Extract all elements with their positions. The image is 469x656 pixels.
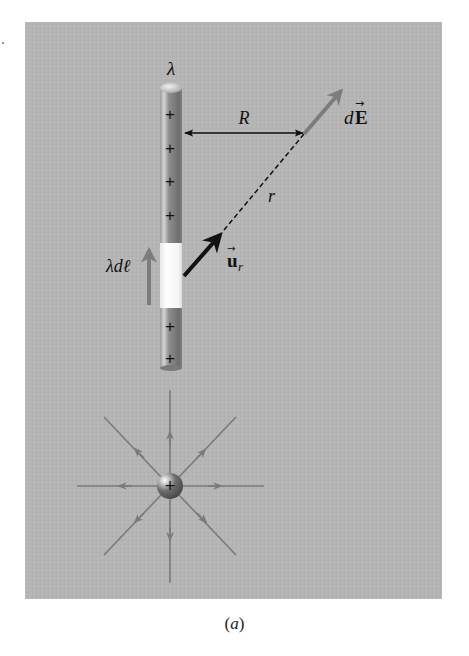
figure-panel: [25, 22, 442, 599]
de-prefix: d: [344, 107, 354, 128]
caption-close-paren: ): [239, 614, 245, 633]
lambda-label: λ: [166, 58, 175, 79]
de-symbol: E: [355, 107, 368, 128]
plus-sign: +: [165, 105, 175, 124]
caption-letter: a: [230, 614, 239, 633]
figure-caption: (a): [0, 614, 469, 634]
de-vector-arrow: →: [355, 97, 364, 110]
charge-element-label: λdℓ: [105, 256, 131, 276]
charge-element-dl: [160, 243, 182, 308]
diagram-figure: + + + + + + λ R r d E → u r → λdℓ: [0, 0, 469, 656]
unit-vector-arrow-accent: →: [227, 243, 235, 254]
r-distance-label: r: [268, 186, 276, 206]
plus-sign: +: [165, 317, 175, 336]
point-charge-sign: +: [165, 476, 176, 496]
plus-sign: +: [165, 172, 175, 191]
plus-sign: +: [165, 206, 175, 225]
plus-sign: +: [165, 139, 175, 158]
rod-top-cap: [160, 83, 182, 93]
plus-sign: +: [165, 349, 175, 368]
r-perpendicular-label: R: [238, 108, 250, 128]
